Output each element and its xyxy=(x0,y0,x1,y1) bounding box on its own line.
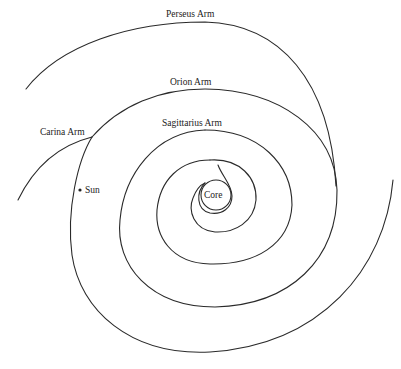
galaxy-diagram: Perseus Arm Orion Arm Sagittarius Arm Ca… xyxy=(0,0,401,369)
sun-label: Sun xyxy=(85,185,100,195)
perseus-arm-label: Perseus Arm xyxy=(166,9,215,19)
perseus-arm-line xyxy=(26,22,336,186)
sun-dot xyxy=(78,188,81,191)
core-label: Core xyxy=(204,190,222,200)
orion-arm-label: Orion Arm xyxy=(170,77,212,87)
carina-arm-label: Carina Arm xyxy=(40,127,85,137)
sagittarius-arm-label: Sagittarius Arm xyxy=(162,118,223,128)
outer-spiral-line xyxy=(70,137,393,352)
sagittarius-arm-line xyxy=(157,130,292,264)
